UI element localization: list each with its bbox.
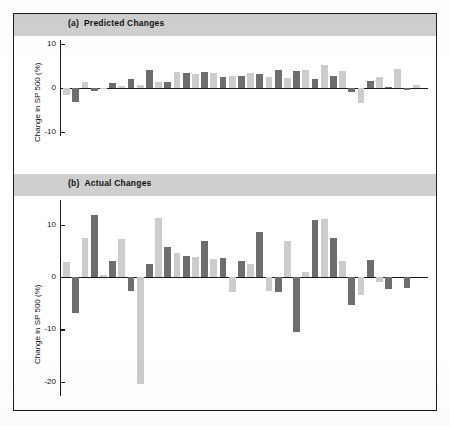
plot-b-bar	[210, 259, 217, 277]
figure-root: (a)Predicted Changes 100-10 Change in SP…	[0, 0, 450, 426]
plot-b-bar	[100, 275, 107, 277]
plot-b-bar	[385, 277, 392, 288]
plot-a-bar	[385, 87, 392, 88]
plot-b-ytick-label: 0	[30, 272, 56, 281]
plot-a-bar	[164, 82, 171, 88]
plot-b-bar	[404, 277, 411, 287]
plot-b-bar	[220, 258, 227, 277]
plot-a-bar	[72, 88, 79, 102]
plot-a-bar	[376, 77, 383, 88]
plot-b-bar	[284, 241, 291, 278]
plot-a-bar	[404, 88, 411, 90]
plot-a-bar	[210, 73, 217, 88]
plot-b-bar	[118, 239, 125, 277]
plot-b-bar	[63, 262, 70, 277]
plot-a-bar	[192, 74, 199, 88]
plot-a-bar	[146, 70, 153, 88]
plot-a-bar	[155, 82, 162, 88]
plot-b-bar	[82, 238, 89, 277]
plot-b-bar	[367, 260, 374, 277]
plot-a-zero-line	[60, 88, 428, 89]
plot-b-bar	[238, 261, 245, 277]
plot-b-ytick-label: 10	[30, 220, 56, 229]
plot-b-bar	[312, 220, 319, 277]
plot-a-bar	[256, 74, 263, 88]
plot-a-bar	[284, 78, 291, 88]
plot-a-bar	[358, 88, 365, 103]
plot-b-bar	[229, 277, 236, 292]
panel-b-title: (b)Actual Changes	[68, 178, 152, 188]
plot-a-bar	[183, 73, 190, 88]
plot-b-bar	[192, 257, 199, 277]
panel-a-ylabel: Change in SP 500 (%)	[33, 63, 42, 142]
plot-a-bar	[339, 71, 346, 88]
plot-a-bar	[238, 76, 245, 88]
panel-b-title-text: Actual Changes	[84, 178, 151, 188]
plot-a-ytick	[61, 132, 65, 133]
plot-a-ytick	[61, 44, 65, 45]
plot-b-bar	[330, 238, 337, 277]
plot-a-bar	[321, 65, 328, 88]
plot-b-zero-line	[60, 277, 428, 278]
panel-a-tag: (a)	[68, 18, 79, 28]
plot-b-bar	[91, 215, 98, 277]
plot-b-bar	[339, 261, 346, 277]
plot-a-bar	[302, 70, 309, 88]
plot-b-bar	[72, 277, 79, 313]
panel-predicted-changes: (a)Predicted Changes 100-10 Change in SP…	[14, 14, 436, 174]
plot-b-bar	[174, 253, 181, 277]
plot-b-bar	[247, 264, 254, 278]
plot-a-bar	[91, 88, 98, 91]
plot-b-bar	[376, 277, 383, 282]
plot-a-bar	[266, 77, 273, 88]
plot-b-ytick	[61, 225, 65, 226]
plot-a-ytick-label: 10	[30, 39, 56, 48]
plot-a-bar	[201, 72, 208, 88]
plot-a-bar	[312, 79, 319, 88]
plot-b-bar	[266, 277, 273, 291]
panel-actual-changes: (b)Actual Changes 100-10-20 Change in SP…	[14, 174, 436, 410]
plot-b-bar	[155, 218, 162, 278]
plot-b-ytick-label: -20	[30, 377, 56, 386]
figure-frame: (a)Predicted Changes 100-10 Change in SP…	[13, 13, 437, 411]
panel-b-plot-area: 100-10-20	[14, 196, 436, 410]
plot-b-bar	[201, 241, 208, 277]
plot-b-bar	[256, 232, 263, 277]
plot-b-bar	[358, 277, 365, 295]
plot-a-bar	[413, 85, 420, 88]
plot-a-bar	[247, 73, 254, 88]
plot-b-bar	[321, 219, 328, 277]
plot-a-bar	[82, 82, 89, 88]
plot-a-bar	[394, 69, 401, 88]
plot-a-bar	[137, 85, 144, 88]
plot-b-ytick	[61, 382, 65, 383]
plot-b-bar	[183, 256, 190, 277]
plot-b-bar	[146, 264, 153, 278]
plot-a-bar	[330, 76, 337, 88]
plot-b-ytick	[61, 329, 65, 330]
plot-a-bar	[275, 70, 282, 88]
plot-b-bar	[109, 261, 116, 277]
plot-b-bar	[302, 272, 309, 277]
plot-b-bar	[293, 277, 300, 332]
plot-b-bar	[275, 277, 282, 292]
plot-b-bar	[128, 277, 135, 291]
panel-a-title-text: Predicted Changes	[84, 18, 164, 28]
plot-a-bar	[220, 77, 227, 88]
plot-b-y-axis	[60, 200, 61, 396]
plot-a-bar	[109, 83, 116, 88]
plot-a-bar	[128, 79, 135, 88]
plot-a-bar	[118, 86, 125, 88]
plot-b-bar	[348, 277, 355, 305]
plot-a-bar	[174, 72, 181, 88]
plot-b-bar	[137, 277, 144, 384]
plot-b-bar	[164, 247, 171, 277]
panel-a-title: (a)Predicted Changes	[68, 18, 164, 28]
panel-b-tag: (b)	[68, 178, 79, 188]
panel-b-ylabel: Change in SP 500 (%)	[33, 285, 42, 364]
plot-a-bar	[367, 81, 374, 88]
plot-a-bar	[100, 88, 107, 89]
plot-a-bar	[63, 88, 70, 95]
plot-a-bar	[229, 76, 236, 88]
plot-a-bar	[348, 88, 355, 92]
